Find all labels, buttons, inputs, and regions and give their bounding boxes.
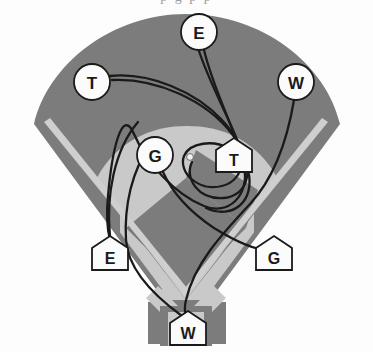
circle-marker-g[interactable]: G xyxy=(137,137,173,173)
pitchers-mound xyxy=(187,154,194,161)
circle-label-e: E xyxy=(193,24,204,43)
pentagon-marker-g[interactable]: G xyxy=(256,236,292,270)
circle-marker-t[interactable]: T xyxy=(74,64,110,100)
circle-marker-w[interactable]: W xyxy=(278,64,314,100)
baseball-field-diagram: T E G W E T xyxy=(0,0,373,352)
pentagon-label-g: G xyxy=(268,250,280,267)
circle-marker-e[interactable]: E xyxy=(181,14,217,50)
diagram-canvas: p g p p xyxy=(0,0,373,352)
circle-label-t: T xyxy=(87,74,98,93)
pentagon-label-t: T xyxy=(229,152,239,169)
circle-label-g: G xyxy=(148,147,161,166)
pentagon-label-w: W xyxy=(180,325,196,342)
circle-label-w: W xyxy=(288,74,305,93)
pentagon-label-e: E xyxy=(105,250,116,267)
